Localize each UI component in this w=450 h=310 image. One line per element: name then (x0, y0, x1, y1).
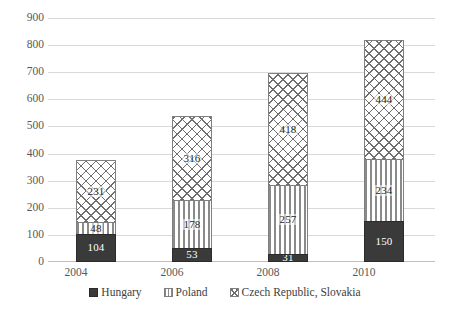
legend-item-poland[interactable]: Poland (164, 286, 208, 298)
bar-segment-czsk-2004[interactable]: 231 (76, 160, 116, 223)
bar-label-poland-2004: 48 (89, 223, 102, 234)
bar-group-2004[interactable]: 231 48 104 (76, 161, 116, 262)
y-tick-800: 800 (4, 39, 44, 51)
y-tick-300: 300 (4, 175, 44, 187)
legend-label-hungary: Hungary (101, 286, 141, 298)
bar-label-hungary-2008: 31 (282, 254, 293, 262)
bar-segment-hungary-2008[interactable]: 31 (268, 254, 308, 262)
x-tick-2008: 2008 (223, 266, 313, 278)
legend-label-czech-slovakia: Czech Republic, Slovakia (242, 286, 361, 298)
bar-segment-czsk-2006[interactable]: 316 (172, 116, 212, 202)
y-tick-900: 900 (4, 12, 44, 24)
bar-group-2010[interactable]: 444 234 150 (364, 41, 404, 262)
y-tick-100: 100 (4, 229, 44, 241)
x-tick-2004: 2004 (31, 266, 121, 278)
legend-label-poland: Poland (176, 286, 208, 298)
bar-segment-hungary-2010[interactable]: 150 (364, 221, 404, 262)
bar-segment-poland-2006[interactable]: 178 (172, 200, 212, 248)
gridline-900 (48, 18, 435, 19)
y-tick-400: 400 (4, 148, 44, 160)
bar-label-poland-2008: 257 (278, 214, 297, 225)
y-tick-700: 700 (4, 66, 44, 78)
legend-item-hungary[interactable]: Hungary (89, 286, 141, 298)
legend-swatch-poland-icon (164, 288, 173, 297)
plot-area: 231 48 104 316 178 53 418 (48, 18, 435, 262)
legend-item-czech-slovakia[interactable]: Czech Republic, Slovakia (230, 286, 361, 298)
bar-label-czsk-2008: 418 (278, 124, 297, 135)
x-tick-2010: 2010 (319, 266, 409, 278)
x-tick-2006: 2006 (127, 266, 217, 278)
stacked-bar-chart: 900 800 700 600 500 400 300 200 100 0 23… (0, 0, 450, 310)
y-tick-600: 600 (4, 94, 44, 106)
bar-label-hungary-2004: 104 (87, 242, 104, 253)
bar-label-poland-2006: 178 (182, 219, 201, 230)
legend-swatch-czech-slovakia-icon (230, 288, 239, 297)
y-tick-500: 500 (4, 121, 44, 133)
bar-segment-poland-2010[interactable]: 234 (364, 159, 404, 222)
bar-label-czsk-2010: 444 (374, 94, 393, 105)
y-tick-200: 200 (4, 202, 44, 214)
bar-segment-hungary-2006[interactable]: 53 (172, 248, 212, 262)
bar-segment-czsk-2010[interactable]: 444 (364, 40, 404, 160)
bar-segment-poland-2008[interactable]: 257 (268, 185, 308, 255)
bar-label-hungary-2006: 53 (186, 249, 197, 260)
bar-group-2006[interactable]: 316 178 53 (172, 117, 212, 262)
chart-legend: Hungary Poland Czech Republic, Slovakia (0, 286, 450, 298)
bar-label-czsk-2006: 316 (182, 153, 201, 164)
bar-label-czsk-2004: 231 (86, 186, 105, 197)
bar-group-2008[interactable]: 418 257 31 (268, 74, 308, 262)
bar-segment-czsk-2008[interactable]: 418 (268, 73, 308, 186)
legend-swatch-hungary-icon (89, 288, 98, 297)
bar-segment-hungary-2004[interactable]: 104 (76, 234, 116, 262)
bar-label-poland-2010: 234 (374, 185, 393, 196)
bar-label-hungary-2010: 150 (375, 236, 392, 247)
